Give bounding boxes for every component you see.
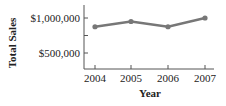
x-tick-label: 2006	[157, 72, 180, 84]
sales-line	[95, 18, 205, 27]
data-point	[128, 19, 133, 24]
data-point	[202, 15, 207, 20]
x-tick-label: 2005	[120, 72, 143, 84]
chart-root: $500,000$1,000,0002004200520062007 Total…	[0, 0, 226, 106]
x-axis-label: Year	[139, 87, 161, 99]
line-chart: $500,000$1,000,0002004200520062007 Total…	[0, 0, 226, 106]
axes: $500,000$1,000,0002004200520062007	[31, 5, 217, 84]
x-tick-label: 2007	[194, 72, 217, 84]
data-point	[92, 24, 97, 29]
data-point	[165, 24, 170, 29]
y-axis-label: Total Sales	[6, 17, 18, 68]
x-tick-label: 2004	[84, 72, 107, 84]
y-tick-label: $1,000,000	[31, 12, 81, 24]
y-tick-label: $500,000	[39, 47, 81, 59]
series-line	[92, 15, 207, 29]
